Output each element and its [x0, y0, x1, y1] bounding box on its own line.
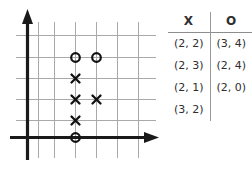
- coordinates-table-panel: X O (2, 2) (3, 4) (2, 3) (2, 4) (2, 1) (…: [168, 12, 252, 158]
- x-axis: [10, 132, 159, 143]
- x-axis-arrow: [144, 132, 159, 143]
- cell-o-0: (3, 4): [210, 33, 252, 56]
- cell-o-2: (2, 0): [210, 77, 252, 99]
- table-header-row: X O: [168, 12, 252, 33]
- cell-x-3: (3, 2): [168, 99, 210, 121]
- table-row: (3, 2): [168, 99, 252, 121]
- table-row: (2, 1) (2, 0): [168, 77, 252, 99]
- table-header-x: X: [168, 12, 210, 33]
- graph-svg: [0, 0, 165, 170]
- screenshot-root: X O (2, 2) (3, 4) (2, 3) (2, 4) (2, 1) (…: [0, 0, 252, 170]
- cell-x-1: (2, 3): [168, 55, 210, 77]
- y-axis-arrow: [22, 9, 33, 24]
- coordinates-table: X O (2, 2) (3, 4) (2, 3) (2, 4) (2, 1) (…: [168, 12, 252, 121]
- coordinate-graph: [0, 0, 165, 170]
- cell-o-1: (2, 4): [210, 55, 252, 77]
- table-row: (2, 3) (2, 4): [168, 55, 252, 77]
- horizontal-gridlines: [16, 36, 156, 121]
- cell-o-3: [210, 99, 252, 121]
- table-header-o: O: [210, 12, 252, 33]
- cell-x-2: (2, 1): [168, 77, 210, 99]
- table-row: (2, 2) (3, 4): [168, 33, 252, 56]
- cell-x-0: (2, 2): [168, 33, 210, 56]
